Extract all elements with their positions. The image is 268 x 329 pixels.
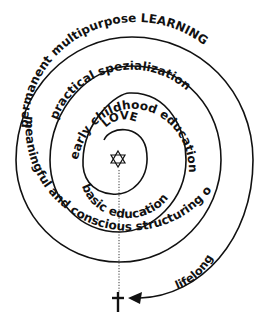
lifelong-learning-spiral-diagram: LOVE early childhood education basic edu… bbox=[0, 0, 268, 329]
spiral-canvas: LOVE early childhood education basic edu… bbox=[0, 0, 268, 329]
spiral-line bbox=[16, 37, 253, 298]
label-early-childhood: early childhood education bbox=[67, 98, 200, 173]
star-of-david-icon bbox=[111, 151, 125, 167]
arrowhead-icon bbox=[128, 292, 142, 304]
cross-icon bbox=[112, 292, 124, 312]
label-lifelong: lifelong bbox=[173, 252, 216, 293]
